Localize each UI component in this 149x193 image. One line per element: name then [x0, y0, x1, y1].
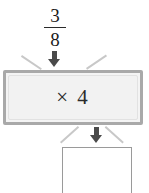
arrow-head [48, 59, 60, 67]
function-machine-diagram: 3 8 × 4 [0, 0, 149, 193]
output-funnel-line-left [60, 126, 79, 144]
input-fraction-denominator: 8 [38, 29, 72, 49]
input-funnel-line-left [21, 55, 42, 70]
operation-label: × 4 [56, 85, 90, 110]
input-fraction: 3 8 [38, 6, 72, 49]
operation-box: × 4 [3, 70, 143, 125]
answer-box[interactable] [62, 147, 132, 193]
output-funnel-line-right [105, 126, 124, 144]
arrow-head [90, 135, 102, 143]
fraction-bar [44, 27, 66, 28]
input-funnel-line-right [86, 55, 107, 70]
input-fraction-numerator: 3 [38, 6, 72, 26]
operation-box-inner: × 4 [8, 75, 138, 120]
